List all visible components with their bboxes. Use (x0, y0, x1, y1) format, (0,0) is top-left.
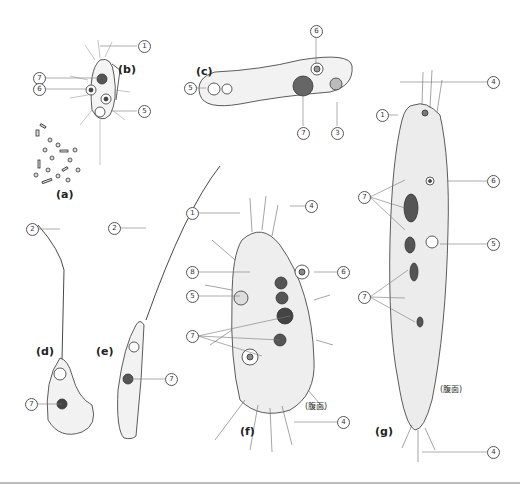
callout-7: 7 (25, 398, 38, 411)
callout-4: 4 (305, 200, 318, 213)
organism-c (199, 57, 352, 106)
callout-6: 6 (487, 175, 500, 188)
organism-e (118, 166, 220, 439)
panel-label-g: (g) (375, 425, 393, 438)
callout-7: 7 (297, 127, 310, 140)
callout-5: 5 (184, 82, 197, 95)
protist-diagram (0, 0, 520, 494)
callout-2: 2 (108, 222, 121, 235)
callout-3: 3 (331, 127, 344, 140)
panel-label-c: (c) (196, 65, 213, 78)
bottom-divider (0, 482, 520, 484)
callout-7: 7 (358, 291, 371, 304)
callout-7: 7 (165, 373, 178, 386)
callout-1: 1 (376, 109, 389, 122)
bacteria-cluster-a (34, 124, 80, 184)
panel-label-d: (d) (36, 345, 54, 358)
panel-label-f: (f) (240, 425, 255, 438)
callout-1: 1 (138, 40, 151, 53)
callout-4: 4 (487, 446, 500, 459)
panel-label-a: (a) (56, 188, 73, 201)
callout-7: 7 (358, 191, 371, 204)
callout-1: 1 (186, 207, 199, 220)
callout-2: 2 (26, 223, 39, 236)
callout-4: 4 (487, 76, 500, 89)
organism-g (390, 70, 449, 462)
callout-4: 4 (337, 416, 350, 429)
callout-7: 7 (186, 330, 199, 343)
organism-d (38, 225, 94, 434)
callout-5: 5 (186, 290, 199, 303)
organism-b (70, 40, 130, 165)
ventral-note-f: (腹面) (305, 400, 327, 411)
callout-5: 5 (138, 105, 151, 118)
callout-5: 5 (487, 238, 500, 251)
panel-label-b: (b) (118, 63, 136, 76)
callout-6: 6 (33, 83, 46, 96)
callout-6: 6 (337, 266, 350, 279)
panel-label-e: (e) (96, 345, 114, 358)
organism-f (205, 196, 333, 452)
callout-8: 8 (186, 266, 199, 279)
ventral-note-g: (腹面) (440, 383, 462, 394)
callout-6: 6 (310, 25, 323, 38)
